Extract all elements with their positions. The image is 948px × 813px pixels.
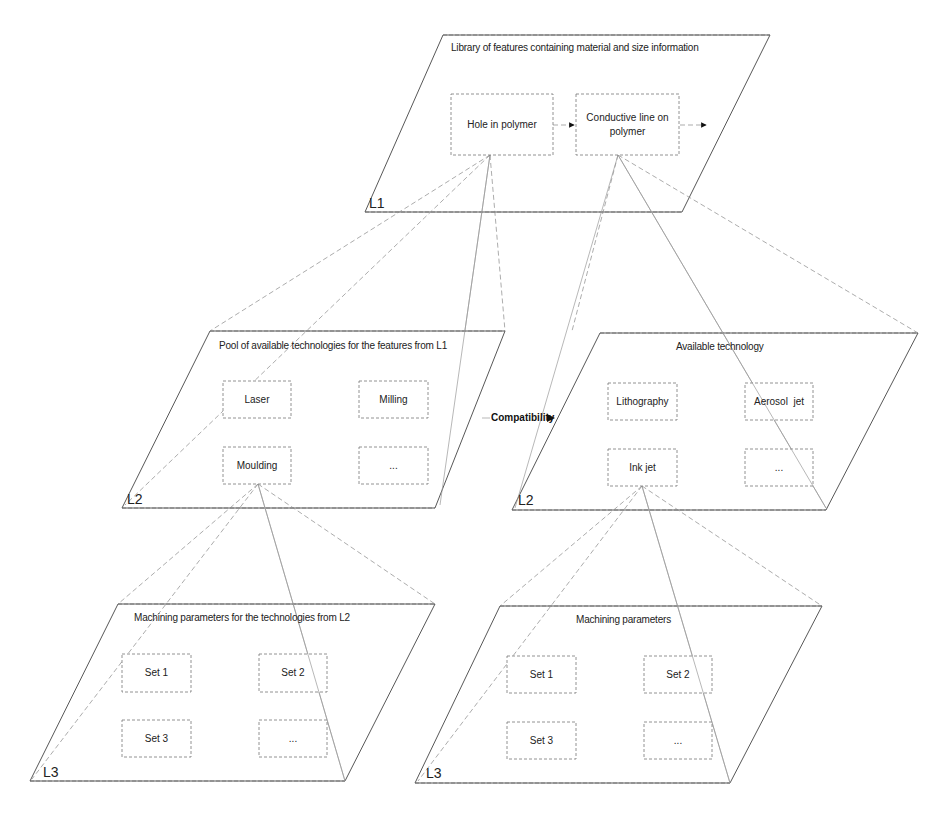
l2-right-title: Available technology (676, 341, 764, 352)
param-left-set1-label: Set 1 (122, 654, 191, 692)
l2-right-panel (512, 333, 918, 510)
l1-panel (365, 35, 770, 212)
l3-right-title: Machining parameters (576, 614, 671, 625)
feature-conductive-label: Conductive line on polymer (584, 94, 671, 155)
param-left-set3-label: Set 3 (122, 720, 191, 757)
l2-right-tag: L2 (518, 492, 534, 508)
tech-moulding-label: Moulding (223, 447, 291, 484)
l3-right-panel (415, 606, 822, 783)
l1-title: Library of features containing material … (451, 42, 699, 53)
l3-right-tag: L3 (426, 765, 442, 781)
l2-left-title: Pool of available technologies for the f… (219, 340, 447, 351)
tech-more-right-label: ... (745, 449, 813, 486)
l1-tag: L1 (369, 195, 385, 211)
compatibility-label: Compatibility (491, 412, 554, 423)
l2-left-panel (122, 331, 505, 508)
param-right-more-label: ... (644, 722, 712, 759)
l2-left-tag: L2 (127, 491, 143, 507)
tech-laser-label: Laser (223, 381, 291, 418)
tech-more-left-label: ... (359, 447, 428, 484)
param-right-set2-label: Set 2 (644, 656, 712, 693)
l3-left-tag: L3 (43, 764, 59, 780)
param-right-set3-label: Set 3 (507, 722, 576, 759)
tech-lithography-label: Lithography (608, 383, 677, 420)
tech-milling-label: Milling (359, 381, 428, 418)
l3-left-panel (30, 604, 435, 781)
tech-aerosol-label: Aerosol jet (745, 383, 813, 420)
param-left-more-label: ... (259, 720, 327, 757)
feature-hole-label: Hole in polymer (451, 94, 553, 155)
param-right-set1-label: Set 1 (507, 656, 576, 693)
tech-inkjet-label: Ink jet (608, 449, 677, 486)
l3-left-title: Machining parameters for the technologie… (134, 612, 350, 623)
param-left-set2-label: Set 2 (259, 654, 327, 692)
